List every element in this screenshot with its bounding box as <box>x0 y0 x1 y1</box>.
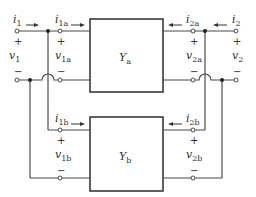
wire-bottom-right <box>163 74 236 80</box>
minus-sign: − <box>190 165 198 176</box>
minus-sign: − <box>233 66 241 77</box>
terminal <box>58 29 62 33</box>
arrow-right-icon <box>34 23 39 27</box>
label-i2: i2 <box>232 13 241 28</box>
label-i2b: i2b <box>186 112 200 127</box>
plus-sign: + <box>190 36 198 47</box>
two-port-parallel-diagram: Ya Yb i1 i1a i2a i2 i1b i2b v1 v1a v2a v… <box>0 0 256 197</box>
plus-sign: + <box>57 135 65 146</box>
terminal <box>191 128 195 132</box>
plus-sign: + <box>57 36 65 47</box>
junction-dot <box>203 29 207 33</box>
label-v1b: v1b <box>55 148 71 163</box>
label-v1a: v1a <box>55 49 71 64</box>
minus-sign: − <box>14 66 22 77</box>
label-v2a: v2a <box>186 49 202 64</box>
label-i1a: i1a <box>55 13 69 28</box>
terminal <box>58 128 62 132</box>
plus-sign: + <box>14 36 22 47</box>
arrow-right-icon <box>80 122 85 126</box>
terminal <box>191 29 195 33</box>
network-box-b <box>90 117 163 191</box>
terminal <box>15 78 19 82</box>
label-i1: i1 <box>13 13 22 28</box>
terminal <box>191 78 195 82</box>
label-v2: v2 <box>232 49 243 64</box>
plus-sign: + <box>233 36 241 47</box>
label-i1b: i1b <box>55 112 69 127</box>
arrow-left-icon <box>168 122 173 126</box>
terminal <box>15 29 19 33</box>
label-v2b: v2b <box>186 148 202 163</box>
wire-bottom-left <box>17 74 90 80</box>
junction-dot <box>220 78 224 82</box>
minus-sign: − <box>57 165 65 176</box>
label-i2a: i2a <box>186 13 200 28</box>
terminal <box>58 78 62 82</box>
terminal <box>234 29 238 33</box>
arrow-left-icon <box>213 23 218 27</box>
arrow-right-icon <box>80 23 85 27</box>
junction-dot <box>46 29 50 33</box>
arrow-left-icon <box>168 23 173 27</box>
network-box-a <box>90 19 163 92</box>
terminal <box>234 78 238 82</box>
terminal <box>58 176 62 180</box>
minus-sign: − <box>190 66 198 77</box>
label-v1: v1 <box>9 49 20 64</box>
terminal <box>191 176 195 180</box>
junction-dot <box>28 78 32 82</box>
plus-sign: + <box>190 135 198 146</box>
minus-sign: − <box>57 66 65 77</box>
